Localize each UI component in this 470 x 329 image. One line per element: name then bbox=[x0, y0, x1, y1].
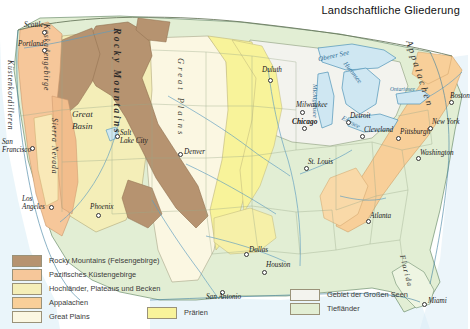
legend-label-prairies: Prärien bbox=[184, 308, 208, 317]
city-dot-houston bbox=[262, 270, 267, 275]
legend-secondary: Gebiet der Großen Seen Tiefländer bbox=[290, 288, 408, 316]
legend-swatch-highlands bbox=[12, 283, 42, 295]
legend-label-great-plains: Great Plains bbox=[49, 312, 90, 321]
legend-primary: Rocky Mountains (Felsengebirge) Pazifisc… bbox=[12, 254, 160, 324]
city-dot-portland bbox=[42, 48, 47, 53]
legend-item-lowlands: Tiefländer bbox=[290, 302, 408, 315]
city-dot-san-francisco bbox=[30, 146, 35, 151]
legend-label-highlands: Hochländer, Plateaus und Becken bbox=[49, 284, 160, 293]
city-dot-dallas bbox=[244, 252, 249, 257]
legend-swatch-appalachians bbox=[12, 297, 42, 309]
city-dot-milwaukee bbox=[300, 110, 305, 115]
legend-prairies: Prärien bbox=[147, 306, 208, 320]
legend-label-lowlands: Tiefländer bbox=[327, 304, 360, 313]
city-dot-detroit bbox=[346, 120, 351, 125]
legend-item-pacific-ranges: Pazifisches Küstengebirge bbox=[12, 268, 160, 281]
city-dot-denver bbox=[178, 152, 183, 157]
city-dot-atlanta bbox=[366, 219, 371, 224]
legend-swatch-great-plains bbox=[12, 311, 42, 323]
city-dot-salt-lake-city bbox=[115, 134, 120, 139]
legend-item-prairies: Prärien bbox=[147, 306, 208, 319]
city-dot-miami bbox=[422, 302, 427, 307]
city-dot-seattle bbox=[42, 30, 47, 35]
city-dot-cleveland bbox=[360, 134, 365, 139]
legend-swatch-rocky-mountains bbox=[12, 255, 42, 267]
legend-swatch-great-lakes bbox=[290, 289, 320, 301]
city-dot-los-angeles bbox=[49, 205, 54, 210]
city-dot-washington bbox=[416, 156, 421, 161]
legend-label-great-lakes: Gebiet der Großen Seen bbox=[327, 290, 408, 299]
map-title: Landschaftliche Gliederung bbox=[321, 4, 460, 16]
legend-item-highlands: Hochländer, Plateaus und Becken bbox=[12, 282, 160, 295]
legend-item-great-plains: Great Plains bbox=[12, 310, 160, 323]
city-dot-new-york bbox=[428, 126, 433, 131]
legend-label-pacific-ranges: Pazifisches Küstengebirge bbox=[49, 270, 136, 279]
legend-label-rocky-mountains: Rocky Mountains (Felsengebirge) bbox=[49, 256, 160, 265]
city-dot-san-antonio bbox=[220, 290, 225, 295]
legend-item-appalachians: Appalachen bbox=[12, 296, 160, 309]
legend-item-great-lakes: Gebiet der Großen Seen bbox=[290, 288, 408, 301]
city-dot-duluth bbox=[268, 78, 273, 83]
city-dot-chicago bbox=[302, 126, 307, 131]
legend-swatch-prairies bbox=[147, 307, 177, 319]
legend-item-rocky-mountains: Rocky Mountains (Felsengebirge) bbox=[12, 254, 160, 267]
legend-label-appalachians: Appalachen bbox=[49, 298, 88, 307]
city-dot-boston bbox=[449, 100, 454, 105]
legend-swatch-pacific-ranges bbox=[12, 269, 42, 281]
city-dot-phoenix bbox=[96, 213, 101, 218]
legend-swatch-lowlands bbox=[290, 303, 320, 315]
city-dot-pittsburgh bbox=[396, 136, 401, 141]
city-dot-st-louis bbox=[304, 166, 309, 171]
